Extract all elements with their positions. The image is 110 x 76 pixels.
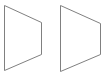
trapezoid-right: [61, 6, 101, 72]
trapezoid-left: [5, 6, 42, 71]
shapes-svg: [0, 0, 110, 76]
diagram-canvas: [0, 0, 110, 76]
